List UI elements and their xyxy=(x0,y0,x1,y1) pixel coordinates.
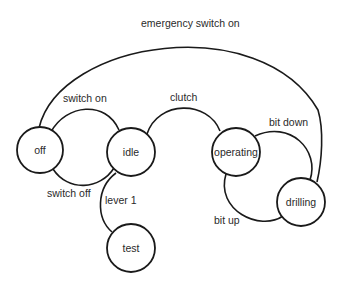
label-lever-1: lever 1 xyxy=(105,194,137,206)
state-drilling-label: drilling xyxy=(286,196,317,208)
state-off-label: off xyxy=(34,144,46,156)
state-diagram: emergency switch on switch on switch off… xyxy=(0,0,340,288)
state-idle: idle xyxy=(107,128,155,176)
label-switch-off: switch off xyxy=(47,187,91,199)
label-bit-down: bit down xyxy=(269,116,308,128)
state-test-label: test xyxy=(123,242,140,254)
arc-switch-off xyxy=(53,168,114,185)
label-emergency-switch-on: emergency switch on xyxy=(141,17,240,29)
label-clutch: clutch xyxy=(170,91,198,103)
label-bit-up: bit up xyxy=(214,214,240,226)
arc-switch-on xyxy=(51,109,119,132)
arc-bit-down xyxy=(255,132,312,180)
state-off: off xyxy=(17,127,63,173)
arc-emergency-switch-on xyxy=(39,47,322,182)
state-test: test xyxy=(107,224,155,272)
state-drilling: drilling xyxy=(277,178,325,226)
arc-clutch xyxy=(147,108,220,134)
label-switch-on: switch on xyxy=(63,92,107,104)
state-operating: operating xyxy=(212,128,260,176)
state-idle-label: idle xyxy=(123,146,140,158)
state-operating-label: operating xyxy=(214,146,258,158)
